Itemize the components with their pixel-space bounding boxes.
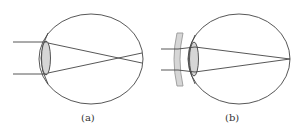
lens-a — [42, 41, 51, 75]
eyeball-b — [188, 14, 290, 104]
figure-a — [13, 14, 143, 104]
figure-label-b: (b) — [225, 112, 239, 123]
eye-diagram — [0, 0, 299, 135]
ray-bottom-out-a — [48, 53, 142, 73]
concave-corrective-lens — [174, 33, 183, 86]
figure-b — [161, 14, 290, 104]
eyeball-a — [39, 14, 143, 104]
ray-top-out-a — [48, 43, 142, 63]
figure-label-a: (a) — [81, 112, 95, 123]
